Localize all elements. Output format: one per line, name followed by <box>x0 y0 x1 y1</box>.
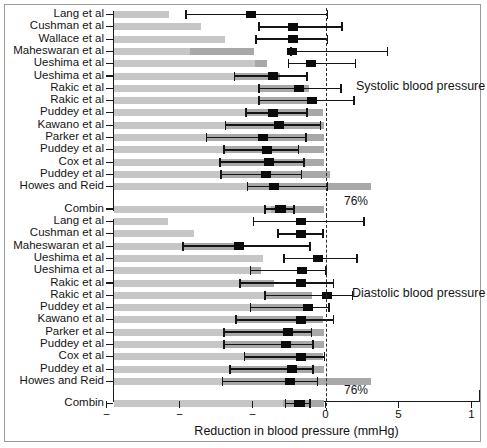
ci-cap-high-diastolic-2 <box>309 242 311 251</box>
row-label-systolic-4: Ueshima et al <box>0 56 104 68</box>
summary-percent-diastolic: 76% <box>344 383 368 397</box>
zero-reference-line-systolic <box>326 8 327 217</box>
point-estimate-systolic-15 <box>275 205 286 213</box>
ci-cap-high-systolic-7 <box>353 96 355 105</box>
ci-cap-low-systolic-4 <box>288 59 290 68</box>
ci-cap-low-systolic-5 <box>234 72 236 81</box>
x-tick-label-3: 0 <box>322 408 328 420</box>
row-label-diastolic-9: Parker et al <box>0 325 104 337</box>
ci-line-diastolic-6 <box>264 295 353 297</box>
ci-cap-high-systolic-10 <box>305 133 307 142</box>
grey-bar-diastolic-1 <box>114 230 194 237</box>
point-estimate-systolic-1 <box>288 23 298 31</box>
point-estimate-diastolic-14 <box>294 400 305 408</box>
ci-cap-high-systolic-0 <box>327 10 329 19</box>
y-tick-systolic-3 <box>106 51 113 52</box>
y-tick-systolic-4 <box>106 63 113 64</box>
row-label-diastolic-13: Howes and Reid <box>0 374 104 386</box>
row-label-systolic-11: Puddey et al <box>0 142 104 154</box>
point-estimate-diastolic-2 <box>234 242 244 250</box>
ci-cap-low-diastolic-5 <box>239 279 241 288</box>
ci-cap-low-systolic-1 <box>258 22 260 31</box>
row-label-systolic-6: Rakic et al <box>0 81 104 93</box>
point-estimate-systolic-0 <box>246 11 256 19</box>
ci-cap-low-diastolic-7 <box>250 303 252 312</box>
row-label-systolic-7: Rakic et al <box>0 93 104 105</box>
ci-cap-high-diastolic-10 <box>312 340 314 349</box>
ci-cap-low-diastolic-9 <box>223 328 225 337</box>
ci-cap-high-systolic-14 <box>327 182 329 191</box>
ci-line-systolic-1 <box>258 26 343 28</box>
row-label-diastolic-14: Combin <box>0 396 104 408</box>
zero-reference-line-diastolic <box>326 215 327 411</box>
ci-cap-high-diastolic-0 <box>363 217 365 226</box>
x-tick-5 <box>471 401 472 408</box>
ci-line-diastolic-9 <box>223 331 312 333</box>
ci-cap-high-diastolic-5 <box>333 279 335 288</box>
ci-cap-low-systolic-12 <box>219 158 221 167</box>
row-label-diastolic-6: Rakic et al <box>0 288 104 300</box>
row-label-diastolic-1: Cushman et al <box>0 226 104 238</box>
row-label-systolic-3: Maheswaran et al <box>0 44 104 56</box>
ci-line-systolic-10 <box>206 137 307 139</box>
ci-cap-high-diastolic-9 <box>311 328 313 337</box>
row-label-systolic-15: Combin <box>0 202 104 214</box>
ci-line-diastolic-13 <box>222 381 318 383</box>
point-estimate-diastolic-1 <box>296 230 306 238</box>
ci-cap-high-systolic-8 <box>306 108 308 117</box>
point-estimate-diastolic-12 <box>287 365 297 373</box>
point-estimate-systolic-6 <box>294 85 304 93</box>
ci-cap-low-diastolic-8 <box>235 315 237 324</box>
ci-line-systolic-3 <box>290 51 388 53</box>
panel-title-diastolic: Diastolic blood pressure <box>352 286 485 300</box>
ci-line-systolic-4 <box>288 63 357 65</box>
point-estimate-systolic-10 <box>258 134 268 142</box>
y-tick-diastolic-12 <box>106 369 113 370</box>
y-tick-systolic-11 <box>106 149 113 150</box>
row-label-diastolic-2: Maheswaran et al <box>0 239 104 251</box>
y-tick-diastolic-7 <box>106 307 113 308</box>
grey-bar-overlap-systolic-4 <box>255 60 267 67</box>
y-tick-systolic-6 <box>106 88 113 89</box>
ci-cap-high-systolic-3 <box>387 47 389 56</box>
ci-cap-high-diastolic-12 <box>312 365 314 374</box>
row-label-diastolic-7: Puddey et al <box>0 300 104 312</box>
y-tick-diastolic-2 <box>106 246 113 247</box>
y-tick-diastolic-8 <box>106 319 113 320</box>
ci-cap-low-systolic-9 <box>225 121 227 130</box>
y-tick-diastolic-9 <box>106 332 113 333</box>
y-tick-systolic-12 <box>106 162 113 163</box>
ci-cap-low-systolic-10 <box>206 133 208 142</box>
grey-bar-diastolic-3 <box>114 255 263 262</box>
row-label-diastolic-4: Ueshima et al <box>0 263 104 275</box>
ci-cap-low-systolic-15 <box>264 205 266 214</box>
ci-line-systolic-12 <box>219 161 305 163</box>
grey-bar-systolic-2 <box>114 36 225 43</box>
point-estimate-systolic-3 <box>287 48 297 56</box>
row-label-systolic-0: Lang et al <box>0 7 104 19</box>
row-label-diastolic-8: Kawano et al <box>0 312 104 324</box>
row-label-diastolic-11: Cox et al <box>0 349 104 361</box>
row-label-diastolic-10: Puddey et al <box>0 337 104 349</box>
x-axis-right-cap <box>479 390 480 402</box>
row-label-diastolic-0: Lang et al <box>0 214 104 226</box>
y-tick-systolic-0 <box>106 14 113 15</box>
ci-cap-low-systolic-7 <box>258 96 260 105</box>
ci-cap-low-diastolic-10 <box>223 340 225 349</box>
row-label-systolic-14: Howes and Reid <box>0 179 104 191</box>
y-tick-systolic-15 <box>106 208 113 209</box>
point-estimate-systolic-12 <box>264 158 274 166</box>
point-estimate-systolic-7 <box>307 97 317 105</box>
ci-cap-high-systolic-13 <box>301 170 303 179</box>
y-tick-systolic-14 <box>106 186 113 187</box>
x-tick-2 <box>252 401 253 408</box>
ci-cap-low-diastolic-14 <box>285 399 287 408</box>
y-tick-systolic-10 <box>106 137 113 138</box>
grey-bar-systolic-4 <box>114 60 267 67</box>
y-tick-diastolic-1 <box>106 233 113 234</box>
y-tick-diastolic-4 <box>106 270 113 271</box>
point-estimate-diastolic-0 <box>296 218 306 226</box>
y-tick-systolic-5 <box>106 75 113 76</box>
point-estimate-diastolic-5 <box>296 279 306 287</box>
ci-cap-high-diastolic-1 <box>322 229 324 238</box>
